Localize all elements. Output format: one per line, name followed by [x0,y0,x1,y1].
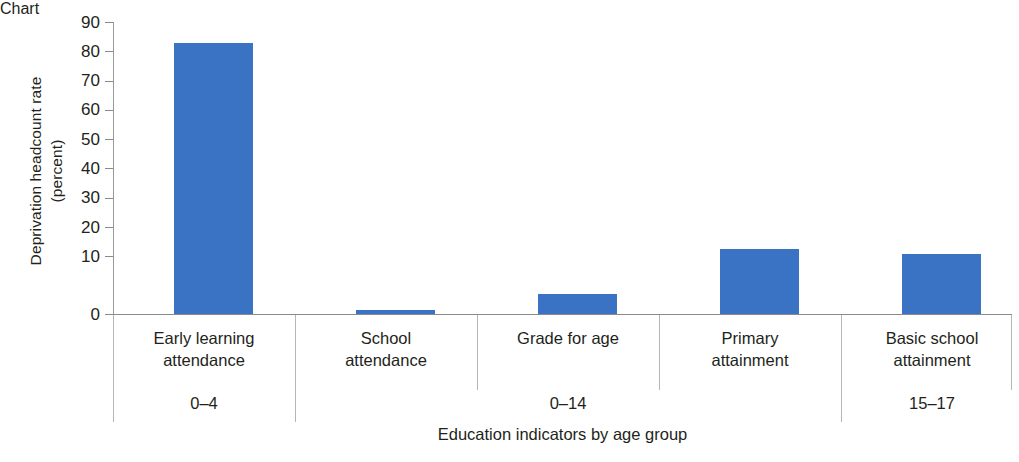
group-separator-0-14-15-17 [841,315,842,422]
group-separator-0-4-0-14 [295,315,296,422]
plot-area [113,22,1012,314]
y-tick-label-10: 10 [56,248,100,265]
y-tick-label-80: 80 [56,43,100,60]
category-label-basic-school-attainment: Basic school attainment [841,315,1019,390]
bar-early-learning-attendance[interactable] [174,43,253,314]
category-label-primary-attainment: Primary attainment [659,315,841,390]
y-tick-mark-50 [105,139,113,140]
y-tick-label-90: 90 [56,14,100,31]
category-separator-right-edge [1011,315,1012,390]
y-tick-mark-80 [105,51,113,52]
y-tick-mark-90 [105,22,113,23]
y-tick-label-20: 20 [56,219,100,236]
bar-school-attendance[interactable] [356,310,435,314]
category-label-early-learning-attendance: Early learning attendance [113,315,295,390]
y-tick-label-30: 30 [56,189,100,206]
category-separator-school-grade [477,315,478,390]
y-tick-mark-30 [105,198,113,199]
bar-grade-for-age[interactable] [538,294,617,314]
group-separator-left-edge [113,315,114,422]
bar-primary-attainment[interactable] [720,249,799,314]
y-tick-mark-10 [105,256,113,257]
y-tick-mark-40 [105,168,113,169]
x-axis-title: Education indicators by age group [113,425,1012,444]
y-tick-mark-20 [105,227,113,228]
y-axis-tick-labels: 90 80 70 60 50 40 30 20 10 0 [56,0,100,340]
category-separator-grade-primary [659,315,660,390]
y-tick-mark-0 [105,314,113,315]
y-tick-mark-70 [105,81,113,82]
age-group-label-0-14: 0–14 [295,390,841,422]
category-label-grade-for-age: Grade for age [477,315,659,390]
y-tick-label-70: 70 [56,72,100,89]
y-tick-label-0: 0 [56,306,100,323]
age-group-label-15-17: 15–17 [841,390,1019,422]
bar-chart: Deprivation headcount rate (percent) 90 … [0,0,1019,462]
y-tick-mark-60 [105,110,113,111]
category-label-school-attendance: School attendance [295,315,477,390]
y-tick-label-40: 40 [56,160,100,177]
y-tick-label-60: 60 [56,101,100,118]
age-group-row: 0–4 0–14 15–17 [113,390,1012,422]
bar-basic-school-attainment[interactable] [902,254,981,314]
y-tick-label-50: 50 [56,131,100,148]
age-group-label-0-4: 0–4 [113,390,295,422]
category-label-row: Early learning attendance School attenda… [113,315,1012,390]
